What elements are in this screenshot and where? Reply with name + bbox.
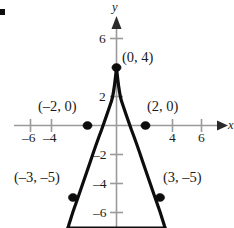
x-tick-label-minus-4: –4 bbox=[43, 131, 57, 145]
y-tick-label-6: 6 bbox=[99, 32, 106, 46]
annotation-vertex: (0, 4) bbox=[122, 50, 153, 65]
bullet-marker-icon bbox=[0, 9, 5, 15]
y-tick-label-minus-2: –2 bbox=[93, 148, 107, 162]
point-left-low-dot bbox=[68, 194, 77, 202]
coordinate-plane-svg bbox=[0, 0, 234, 228]
annotation-right-root: (2, 0) bbox=[147, 99, 178, 114]
x-tick-label-4: 4 bbox=[169, 131, 176, 145]
y-tick-label-2: 2 bbox=[99, 90, 106, 104]
y-axis-label: y bbox=[112, 1, 118, 14]
x-axis-label: x bbox=[228, 119, 234, 132]
annotation-right-low: (3, –5) bbox=[163, 170, 202, 185]
annotation-left-root: (–2, 0) bbox=[38, 99, 77, 114]
x-axis-arrow-icon bbox=[217, 121, 228, 131]
y-tick-label-minus-6: –6 bbox=[93, 206, 107, 220]
x-tick-label-6: 6 bbox=[198, 131, 205, 145]
point-right-low-dot bbox=[155, 194, 164, 202]
parabola-graph-figure: y x 6 2 –2 –4 –6 –6 –4 4 6 (0, 4) (–2, 0… bbox=[0, 0, 234, 228]
y-tick-label-minus-4: –4 bbox=[93, 177, 107, 191]
point-left-root-dot bbox=[83, 122, 92, 130]
point-vertex-dot bbox=[112, 64, 121, 72]
x-tick-label-minus-6: –6 bbox=[22, 131, 36, 145]
y-axis-arrow-icon bbox=[112, 16, 122, 29]
annotation-left-low: (–3, –5) bbox=[14, 170, 60, 185]
point-right-root-dot bbox=[141, 122, 150, 130]
